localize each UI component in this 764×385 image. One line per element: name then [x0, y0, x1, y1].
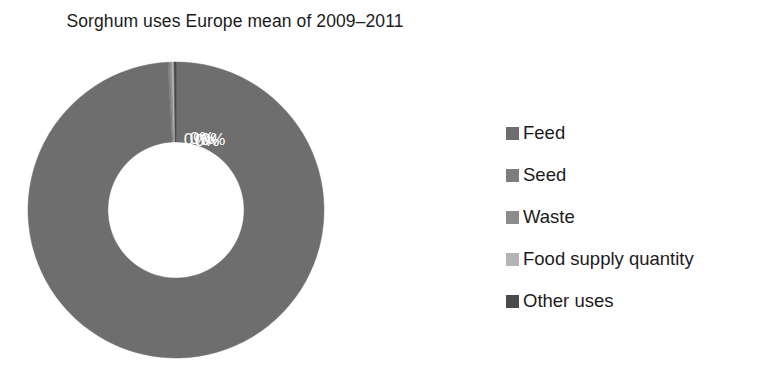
plot-area: 99% 0% 0% 0% 0%	[27, 53, 327, 369]
legend-swatch-icon	[506, 211, 519, 224]
legend-item-label: Other uses	[523, 292, 614, 311]
legend-swatch-icon	[506, 295, 519, 308]
chart-title: Sorghum uses Europe mean of 2009–2011	[0, 11, 470, 32]
chart-legend: FeedSeedWasteFood supply quantityOther u…	[506, 112, 756, 322]
legend-item[interactable]: Feed	[506, 112, 756, 154]
legend-item[interactable]: Seed	[506, 154, 756, 196]
legend-swatch-icon	[506, 169, 519, 182]
legend-item-label: Waste	[523, 208, 575, 227]
donut-svg	[27, 53, 327, 369]
donut-chart: Sorghum uses Europe mean of 2009–2011 99…	[0, 0, 764, 385]
legend-item[interactable]: Food supply quantity	[506, 238, 756, 280]
legend-item-label: Feed	[523, 124, 565, 143]
legend-item-label: Seed	[523, 166, 566, 185]
legend-item-label: Food supply quantity	[523, 250, 694, 269]
data-label-other-uses: 0%	[133, 131, 293, 148]
data-label-feed: 99%	[123, 363, 283, 380]
legend-swatch-icon	[506, 253, 519, 266]
data-label-stack-zero: 0% 0% 0% 0%	[123, 131, 283, 153]
legend-item[interactable]: Other uses	[506, 280, 756, 322]
legend-item[interactable]: Waste	[506, 196, 756, 238]
donut-slice-group	[28, 62, 324, 358]
legend-swatch-icon	[506, 127, 519, 140]
